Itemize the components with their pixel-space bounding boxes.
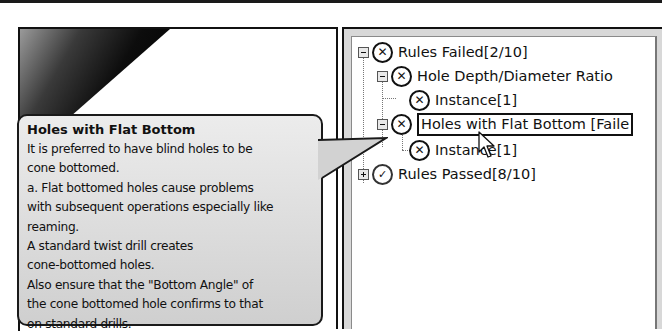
tree-item-label-selected[interactable]: Holes with Flat Bottom [Faile bbox=[417, 113, 633, 136]
tree-connector bbox=[382, 98, 396, 99]
tooltip-title: Holes with Flat Bottom bbox=[27, 120, 315, 139]
tree-item-label: Rules Passed[8/10] bbox=[398, 166, 536, 182]
tooltip-line: with subsequent operations especially li… bbox=[27, 198, 315, 217]
tree-item-holes-with-flat-bottom[interactable]: ✕ Holes with Flat Bottom [Faile bbox=[377, 112, 633, 136]
collapse-icon[interactable] bbox=[358, 47, 369, 58]
collapse-icon[interactable] bbox=[377, 71, 388, 82]
collapse-icon[interactable] bbox=[377, 119, 388, 130]
tooltip-line: cone-bottomed holes. bbox=[27, 256, 315, 275]
mouse-cursor-icon bbox=[478, 131, 496, 159]
tooltip-line: cone bottomed. bbox=[27, 159, 315, 178]
tooltip-line: A standard twist drill creates bbox=[27, 237, 315, 256]
x-circle-icon: ✕ bbox=[372, 42, 393, 63]
tree-item-hole-depth-diameter-ratio[interactable]: ✕ Hole Depth/Diameter Ratio bbox=[377, 64, 613, 88]
tree-item-label: Instance[1] bbox=[435, 92, 517, 108]
tree-item-label: Instance[1] bbox=[435, 142, 517, 158]
tooltip-line: a. Flat bottomed holes cause problems bbox=[27, 179, 315, 198]
tooltip-pointer bbox=[318, 132, 388, 182]
tooltip-line: It is preferred to have blind holes to b… bbox=[27, 140, 315, 159]
tooltip-line: reaming. bbox=[27, 218, 315, 237]
rule-description-tooltip: Holes with Flat Bottom It is preferred t… bbox=[17, 114, 323, 326]
tooltip-line: on standard drills. bbox=[27, 315, 315, 334]
x-circle-icon: ✕ bbox=[391, 114, 412, 135]
x-circle-icon: ✕ bbox=[409, 140, 430, 161]
x-circle-icon: ✕ bbox=[391, 66, 412, 87]
rules-tree-view[interactable]: ✕ Rules Failed[2/10] ✕ Hole Depth/Diamet… bbox=[351, 36, 657, 329]
tree-item-label: Hole Depth/Diameter Ratio bbox=[417, 68, 613, 84]
tooltip-line: Also ensure that the "Bottom Angle" of bbox=[27, 276, 315, 295]
tooltip-line: the cone bottomed hole confirms to that bbox=[27, 295, 315, 314]
background-graphic bbox=[20, 29, 170, 124]
tree-item-instance[interactable]: ✕ Instance[1] bbox=[409, 88, 517, 112]
tree-item-label: Rules Failed[2/10] bbox=[398, 44, 528, 60]
tree-item-instance[interactable]: ✕ Instance[1] bbox=[409, 138, 517, 162]
top-border bbox=[0, 0, 662, 3]
tree-item-rules-failed[interactable]: ✕ Rules Failed[2/10] bbox=[358, 40, 528, 64]
x-circle-icon: ✕ bbox=[409, 90, 430, 111]
